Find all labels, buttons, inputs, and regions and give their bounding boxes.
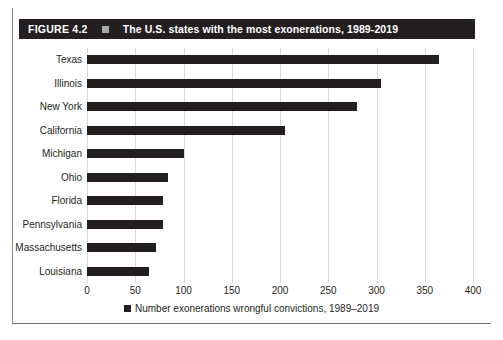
x-axis-tick-labels: 050100150200250300350400 (87, 285, 473, 299)
figure-title-bar: FIGURE 4.2 The U.S. states with the most… (19, 19, 475, 39)
bar-row (87, 142, 473, 166)
bar (87, 149, 184, 158)
category-label: Florida (0, 189, 82, 213)
x-tick-label: 200 (272, 285, 289, 296)
bar (87, 267, 149, 276)
category-axis-labels: TexasIllinoisNew YorkCaliforniaMichiganO… (0, 48, 82, 283)
category-label: Pennsylvania (0, 213, 82, 237)
x-tick-label: 100 (175, 285, 192, 296)
x-tick-label: 350 (416, 285, 433, 296)
legend-square-swatch-icon (124, 305, 131, 312)
category-label: New York (0, 95, 82, 119)
category-label: Michigan (0, 142, 82, 166)
x-tick-label: 0 (84, 285, 90, 296)
bar-row (87, 260, 473, 284)
x-tick-label: 400 (465, 285, 482, 296)
bar-row (87, 95, 473, 119)
x-tick-label: 150 (223, 285, 240, 296)
category-label: Louisiana (0, 260, 82, 284)
category-label: Illinois (0, 72, 82, 96)
chart-legend: Number exonerations wrongful convictions… (0, 303, 503, 314)
bar-row (87, 72, 473, 96)
frame-bottom-rule (12, 323, 491, 324)
bar-row (87, 236, 473, 260)
square-marker-icon (102, 26, 109, 33)
bar-row (87, 166, 473, 190)
category-label: Ohio (0, 166, 82, 190)
bar (87, 55, 439, 64)
bar-row (87, 189, 473, 213)
bar-row (87, 213, 473, 237)
plot-area (87, 48, 473, 283)
bar (87, 243, 156, 252)
bar (87, 79, 381, 88)
bar (87, 220, 163, 229)
bar-row (87, 48, 473, 72)
x-tick-label: 250 (320, 285, 337, 296)
figure-container: FIGURE 4.2 The U.S. states with the most… (0, 0, 503, 340)
bar (87, 173, 168, 182)
category-label: Massachusetts (0, 236, 82, 260)
bar (87, 196, 163, 205)
x-tick-label: 50 (130, 285, 141, 296)
category-label: Texas (0, 48, 82, 72)
figure-number-label: FIGURE 4.2 (28, 23, 88, 35)
bar-row (87, 119, 473, 143)
category-label: California (0, 119, 82, 143)
x-tick-label: 300 (368, 285, 385, 296)
bar (87, 126, 285, 135)
bar (87, 102, 357, 111)
gridline (473, 48, 474, 283)
legend-label: Number exonerations wrongful convictions… (135, 303, 379, 314)
figure-title-text: The U.S. states with the most exoneratio… (123, 23, 398, 35)
